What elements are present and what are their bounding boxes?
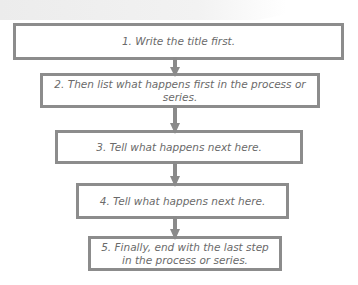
step-box-2: 2. Then list what happens first in the p…	[40, 73, 320, 108]
step-label: 3. Tell what happens next here.	[96, 141, 262, 154]
step-label: 2. Then list what happens first in the p…	[53, 78, 307, 104]
background-shading	[0, 0, 358, 20]
step-label: 4. Tell what happens next here.	[100, 195, 266, 208]
step-box-5: 5. Finally, end with the last step in th…	[88, 236, 282, 271]
step-box-4: 4. Tell what happens next here.	[76, 183, 289, 219]
step-label: 5. Finally, end with the last step in th…	[101, 241, 269, 267]
step-box-1: 1. Write the title first.	[13, 23, 344, 60]
arrow-down-icon	[169, 161, 181, 187]
step-label: 1. Write the title first.	[122, 35, 235, 48]
arrow-down-icon	[169, 216, 181, 240]
arrow-down-icon	[169, 57, 181, 77]
arrow-down-icon	[169, 105, 181, 134]
step-box-3: 3. Tell what happens next here.	[55, 130, 303, 164]
